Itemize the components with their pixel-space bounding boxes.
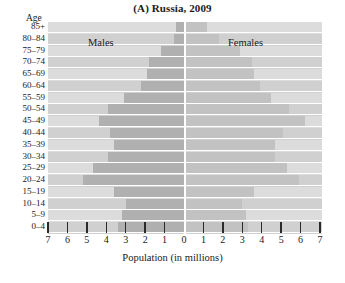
bar-female xyxy=(186,163,287,173)
bar-female xyxy=(186,22,207,32)
bar-male xyxy=(108,104,184,114)
y-tick-label: 25–29 xyxy=(1,162,45,172)
x-tick-mark xyxy=(203,222,205,233)
y-tick-label: 65–69 xyxy=(1,68,45,78)
row-separator xyxy=(48,209,322,210)
bar-male xyxy=(114,187,184,197)
y-tick-label: 35–39 xyxy=(1,139,45,149)
y-tick-label: 20–24 xyxy=(1,174,45,184)
bar-male xyxy=(124,93,184,103)
bar-female xyxy=(186,187,254,197)
x-tick-label: 7 xyxy=(40,234,56,245)
x-tick-mark xyxy=(261,222,263,233)
y-tick-label: 50–54 xyxy=(1,103,45,113)
series-label-females: Females xyxy=(228,37,263,48)
bar-male xyxy=(93,163,184,173)
bar-male xyxy=(110,128,184,138)
bar-female xyxy=(186,69,254,79)
x-tick-label: 5 xyxy=(273,234,289,245)
y-tick-label: 30–34 xyxy=(1,151,45,161)
x-tick-mark xyxy=(47,222,49,233)
bar-male xyxy=(149,57,184,67)
row-separator xyxy=(48,185,322,186)
x-tick-mark xyxy=(67,222,69,233)
y-tick-label: 80–84 xyxy=(1,33,45,43)
x-tick-mark xyxy=(242,222,244,233)
bar-male xyxy=(141,81,184,91)
bar-female xyxy=(186,104,289,114)
x-tick-mark xyxy=(164,222,166,233)
x-tick-label: 1 xyxy=(157,234,173,245)
row-separator xyxy=(48,220,322,221)
x-tick-mark xyxy=(106,222,108,233)
bar-female xyxy=(186,81,260,91)
x-tick-label: 2 xyxy=(137,234,153,245)
bar-female xyxy=(186,210,246,220)
x-tick-mark xyxy=(319,222,321,233)
y-tick-label: 70–74 xyxy=(1,56,45,66)
bar-female xyxy=(186,152,275,162)
x-tick-label: 4 xyxy=(98,234,114,245)
x-tick-label: 3 xyxy=(118,234,134,245)
row-separator xyxy=(48,56,322,57)
y-tick-label: 55–59 xyxy=(1,92,45,102)
row-separator xyxy=(48,114,322,115)
y-tick-label: 0–4 xyxy=(1,221,45,231)
x-tick-mark xyxy=(280,222,282,233)
bar-male xyxy=(83,175,184,185)
x-tick-mark xyxy=(86,222,88,233)
row-separator xyxy=(48,197,322,198)
x-tick-label: 7 xyxy=(312,234,328,245)
plot-area xyxy=(48,22,322,234)
row-separator xyxy=(48,91,322,92)
row-separator xyxy=(48,79,322,80)
x-tick-mark xyxy=(144,222,146,233)
row-separator xyxy=(48,67,322,68)
bar-male xyxy=(174,34,184,44)
x-tick-mark xyxy=(125,222,127,233)
row-separator xyxy=(48,103,322,104)
bar-male xyxy=(114,140,184,150)
x-tick-label: 2 xyxy=(215,234,231,245)
x-tick-label: 4 xyxy=(254,234,270,245)
series-label-males: Males xyxy=(88,37,114,48)
bar-female xyxy=(186,175,299,185)
x-axis: 765432101234567 xyxy=(48,222,322,252)
bar-male xyxy=(147,69,184,79)
y-tick-label: 40–44 xyxy=(1,127,45,137)
bar-male xyxy=(99,116,184,126)
x-tick-label: 6 xyxy=(293,234,309,245)
bar-male xyxy=(176,22,184,32)
chart-title: (A) Russia, 2009 xyxy=(0,2,345,14)
bar-female xyxy=(186,57,252,67)
y-axis-tick-labels: 85+80–8475–7970–7465–6960–6455–5950–5445… xyxy=(0,22,45,234)
y-tick-label: 10–14 xyxy=(1,198,45,208)
row-separator xyxy=(48,162,322,163)
y-tick-label: 15–19 xyxy=(1,186,45,196)
row-separator xyxy=(48,126,322,127)
x-tick-label: 3 xyxy=(234,234,250,245)
bar-male xyxy=(122,210,184,220)
bar-female xyxy=(186,93,271,103)
bar-female xyxy=(186,199,242,209)
x-tick-label: 6 xyxy=(59,234,75,245)
bar-male xyxy=(108,152,184,162)
x-tick-label: 5 xyxy=(79,234,95,245)
y-tick-label: 85+ xyxy=(1,21,45,31)
row-separator xyxy=(48,138,322,139)
bar-female xyxy=(186,140,275,150)
x-tick-mark xyxy=(300,222,302,233)
row-separator xyxy=(48,173,322,174)
x-axis-title: Population (in millions) xyxy=(0,252,345,263)
bar-male xyxy=(161,46,184,56)
bar-male xyxy=(126,199,184,209)
y-tick-label: 45–49 xyxy=(1,115,45,125)
x-tick-mark xyxy=(222,222,224,233)
y-tick-label: 75–79 xyxy=(1,45,45,55)
zero-axis-line xyxy=(184,22,186,234)
bar-female xyxy=(186,116,305,126)
row-separator xyxy=(48,150,322,151)
bar-female xyxy=(186,128,283,138)
y-tick-label: 5–9 xyxy=(1,209,45,219)
row-separator xyxy=(48,32,322,33)
